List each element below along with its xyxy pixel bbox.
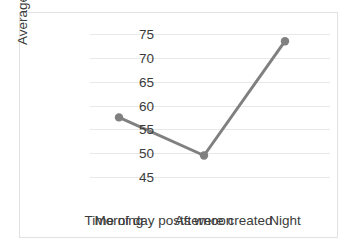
chart-frame: 75 70 65 60 55 50 45 Morning Afternoon N… xyxy=(19,12,338,238)
gridline-45 xyxy=(90,177,330,178)
y-axis-title: Average upvotes xyxy=(16,0,30,45)
x-axis-tick-labels: Morning Afternoon Night xyxy=(90,34,330,177)
x-axis-title: Time of day posts were created xyxy=(20,214,337,228)
plot-area: 75 70 65 60 55 50 45 Morning Afternoon N… xyxy=(90,34,330,177)
